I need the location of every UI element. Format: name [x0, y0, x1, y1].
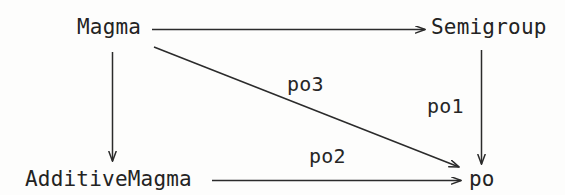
- edge-label-po1: po1: [427, 96, 464, 116]
- edge-label-po2: po2: [309, 146, 346, 166]
- node-magma[interactable]: Magma: [77, 17, 141, 38]
- edge-magma-to-po: [154, 47, 459, 167]
- node-additivemagma[interactable]: AdditiveMagma: [25, 169, 192, 190]
- node-po[interactable]: po: [469, 169, 495, 190]
- diagram-canvas: Magma Semigroup AdditiveMagma po po3 po1…: [0, 0, 565, 195]
- edge-label-po3: po3: [287, 74, 324, 94]
- node-semigroup[interactable]: Semigroup: [431, 17, 547, 38]
